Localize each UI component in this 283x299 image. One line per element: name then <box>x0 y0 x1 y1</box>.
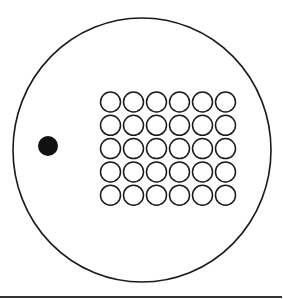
grid-circle <box>216 162 236 182</box>
grid-circle <box>170 162 190 182</box>
grid-circle <box>170 115 190 135</box>
grid-circle <box>101 115 121 135</box>
grid-circle <box>216 139 236 159</box>
circle-grid <box>101 92 236 205</box>
grid-circle <box>101 139 121 159</box>
grid-circle <box>216 185 236 205</box>
grid-circle <box>147 115 167 135</box>
grid-circle <box>147 162 167 182</box>
grid-circle <box>124 139 144 159</box>
grid-circle <box>193 139 213 159</box>
grid-circle <box>124 185 144 205</box>
grid-circle <box>193 162 213 182</box>
grid-circle <box>101 162 121 182</box>
grid-circle <box>170 92 190 112</box>
grid-circle <box>124 92 144 112</box>
grid-circle <box>216 92 236 112</box>
grid-circle <box>101 185 121 205</box>
grid-circle <box>124 162 144 182</box>
grid-circle <box>101 92 121 112</box>
grid-circle <box>170 139 190 159</box>
grid-circle <box>193 115 213 135</box>
diagram-canvas <box>0 0 283 299</box>
filled-dot <box>38 136 58 156</box>
grid-circle <box>147 92 167 112</box>
grid-circle <box>170 185 190 205</box>
grid-circle <box>147 185 167 205</box>
grid-circle <box>147 139 167 159</box>
grid-circle <box>193 185 213 205</box>
grid-circle <box>216 115 236 135</box>
grid-circle <box>124 115 144 135</box>
grid-circle <box>193 92 213 112</box>
diagram-svg <box>0 0 283 299</box>
